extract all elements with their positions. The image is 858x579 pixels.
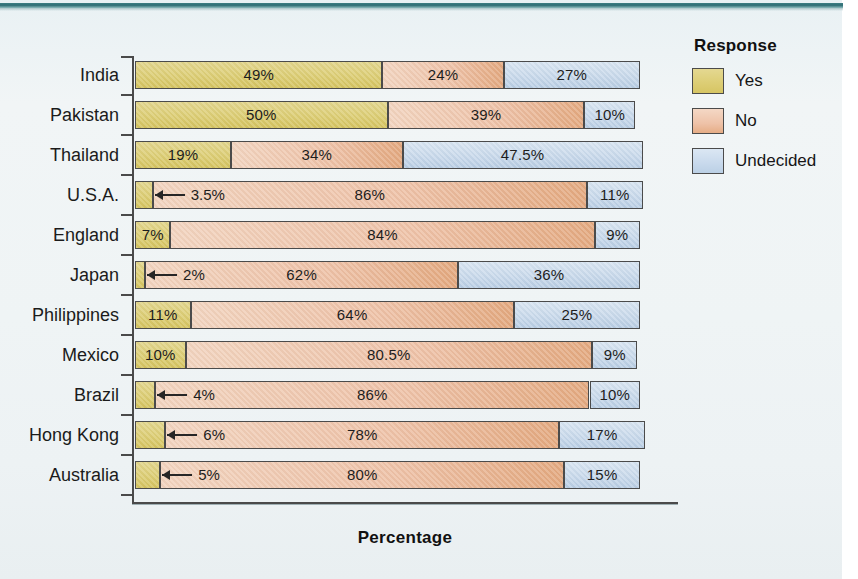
bar-value-label: 49%	[243, 66, 274, 83]
legend: Response YesNoUndecided	[692, 36, 842, 188]
bar-value-label: 17%	[587, 426, 618, 443]
bar-segment-no[interactable]: 84%	[170, 221, 594, 249]
bar-value-label: 25%	[562, 306, 593, 323]
bar-value-label: 34%	[301, 146, 332, 163]
category-label: Hong Kong	[0, 421, 119, 449]
bar-segment-no[interactable]: 78%	[165, 421, 559, 449]
legend-label-no: No	[735, 111, 757, 131]
bar-value-label: 86%	[355, 186, 386, 203]
bar-value-label: 9%	[604, 346, 626, 363]
legend-items: YesNoUndecided	[692, 68, 842, 174]
bar-segment-yes[interactable]: 50%	[135, 101, 388, 129]
bar-segment-undecided[interactable]: 27%	[504, 61, 640, 89]
page-right-margin	[842, 0, 858, 579]
bar-segment-undecided[interactable]: 47.5%	[403, 141, 643, 169]
bar-row: 5%80%15%5%	[135, 461, 640, 489]
bar-value-label: 9%	[606, 226, 628, 243]
bar-segment-yes[interactable]: 49%	[135, 61, 382, 89]
bar-value-label: 10%	[145, 346, 176, 363]
y-axis-tick	[121, 134, 133, 136]
bar-segment-undecided[interactable]: 10%	[590, 381, 641, 409]
bar-segment-no[interactable]: 86%	[153, 181, 587, 209]
bar-segment-no[interactable]: 64%	[191, 301, 514, 329]
bar-value-label: 84%	[367, 226, 398, 243]
bar-value-label: 50%	[246, 106, 277, 123]
bar-value-label: 11%	[600, 186, 630, 203]
bar-segment-yes[interactable]: 11%	[135, 301, 191, 329]
category-label: Japan	[0, 261, 119, 289]
bar-value-label: 24%	[428, 66, 459, 83]
legend-item-undecided[interactable]: Undecided	[692, 148, 842, 174]
category-label: Australia	[0, 461, 119, 489]
bar-segment-undecided[interactable]: 9%	[592, 341, 637, 369]
bar-value-label: 10%	[599, 386, 630, 403]
category-label: Philippines	[0, 301, 119, 329]
y-axis-tick	[121, 414, 133, 416]
bar-segment-undecided[interactable]: 25%	[514, 301, 640, 329]
bar-segment-undecided[interactable]: 15%	[564, 461, 640, 489]
bar-segment-undecided[interactable]: 17%	[559, 421, 645, 449]
bar-row: 7%84%9%	[135, 221, 640, 249]
bar-segment-undecided[interactable]: 10%	[584, 101, 635, 129]
bar-segment-yes[interactable]: 4%	[135, 381, 155, 409]
bar-segment-yes[interactable]: 19%	[135, 141, 231, 169]
bar-segment-yes[interactable]: 7%	[135, 221, 170, 249]
bar-value-label: 64%	[337, 306, 368, 323]
y-axis-tick	[121, 174, 133, 176]
bar-value-label: 80.5%	[367, 346, 411, 363]
legend-item-no[interactable]: No	[692, 108, 842, 134]
bar-value-label: 27%	[557, 66, 588, 83]
category-label: Mexico	[0, 341, 119, 369]
bar-row: 10%80.5%9%	[135, 341, 640, 369]
y-axis-tick	[121, 56, 133, 58]
bar-segment-yes[interactable]: 3.5%	[135, 181, 153, 209]
bar-segment-undecided[interactable]: 36%	[458, 261, 640, 289]
legend-swatch-no	[692, 108, 724, 134]
bar-row: 6%78%17%6%	[135, 421, 640, 449]
bar-segment-undecided[interactable]: 9%	[595, 221, 640, 249]
bar-value-label: 15%	[587, 466, 618, 483]
bar-segment-yes[interactable]: 10%	[135, 341, 186, 369]
y-axis-tick	[121, 214, 133, 216]
bar-value-label: 86%	[357, 386, 388, 403]
legend-label-yes: Yes	[735, 71, 763, 91]
legend-title: Response	[694, 36, 842, 56]
x-axis-title: Percentage	[132, 528, 678, 548]
y-axis-line	[132, 56, 134, 502]
bar-segment-no[interactable]: 80%	[160, 461, 564, 489]
bar-value-label: 80%	[347, 466, 378, 483]
y-axis-tick	[121, 454, 133, 456]
bar-value-label: 11%	[148, 306, 178, 323]
category-label: England	[0, 221, 119, 249]
legend-item-yes[interactable]: Yes	[692, 68, 842, 94]
bar-segment-no[interactable]: 34%	[231, 141, 403, 169]
bar-value-label: 7%	[142, 226, 164, 243]
bar-segment-undecided[interactable]: 11%	[587, 181, 643, 209]
chart-page: IndiaPakistanThailandU.S.A.EnglandJapanP…	[0, 0, 858, 579]
bar-value-label: 36%	[534, 266, 565, 283]
bar-row: 50%39%10%	[135, 101, 640, 129]
bar-segment-no[interactable]: 24%	[382, 61, 503, 89]
bar-segment-no[interactable]: 80.5%	[186, 341, 593, 369]
y-axis-tick	[121, 374, 133, 376]
top-rule-shadow	[0, 8, 843, 11]
bar-segment-no[interactable]: 39%	[388, 101, 585, 129]
category-label: U.S.A.	[0, 181, 119, 209]
y-axis-tick	[121, 334, 133, 336]
bar-segment-no[interactable]: 86%	[155, 381, 589, 409]
plot-area: IndiaPakistanThailandU.S.A.EnglandJapanP…	[135, 58, 640, 498]
category-label: Thailand	[0, 141, 119, 169]
x-axis-line	[132, 502, 678, 505]
y-axis-tick	[121, 294, 133, 296]
bar-value-label: 78%	[347, 426, 378, 443]
bar-segment-yes[interactable]: 2%	[135, 261, 145, 289]
category-label: India	[0, 61, 119, 89]
bar-segment-yes[interactable]: 5%	[135, 461, 160, 489]
bar-row: 11%64%25%	[135, 301, 640, 329]
bar-row: 49%24%27%	[135, 61, 640, 89]
bar-segment-no[interactable]: 62%	[145, 261, 458, 289]
legend-swatch-undecided	[692, 148, 724, 174]
bar-segment-yes[interactable]: 6%	[135, 421, 165, 449]
bar-value-label: 10%	[594, 106, 625, 123]
bar-row: 2%62%36%2%	[135, 261, 640, 289]
